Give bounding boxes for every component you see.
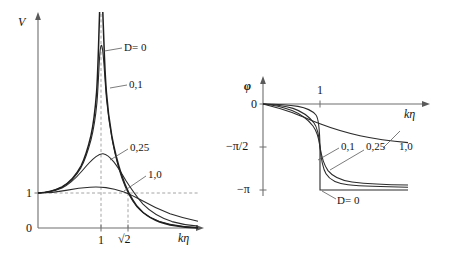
- left-curve-label-d025: 0,25: [130, 142, 149, 153]
- right-ytick-label-pi: −π: [237, 183, 250, 195]
- left-x-axis-label: kη: [178, 232, 189, 244]
- right-curve-label-d01: 0,1: [341, 141, 355, 152]
- right-xtick-label-1: 1: [317, 84, 323, 96]
- right-x-axis-arrow: [422, 101, 430, 107]
- left-curve-d0-right: [103, 12, 198, 228]
- figure-canvas: [0, 0, 452, 256]
- left-curve-label-d01: 0,1: [129, 79, 143, 90]
- right-curve-label-d10: 1,0: [399, 141, 413, 152]
- left-xtick-label-sqrt2: √2: [118, 233, 131, 245]
- resonance-figure: V kη 1 0 1 √2 D= 0 0,1 0,25 1,0 φ kη 0 −…: [0, 0, 452, 256]
- right-curve-d01: [263, 104, 408, 187]
- left-y-axis-arrow: [35, 12, 41, 20]
- right-leader-d10: [383, 131, 400, 148]
- right-leader-d0: [322, 191, 336, 199]
- left-leader-d01: [110, 85, 127, 88]
- left-ytick-label-1: 1: [26, 187, 32, 199]
- left-curve-label-d0: D= 0: [124, 42, 146, 53]
- left-curve-d01: [38, 45, 198, 227]
- left-ytick-label-0: 0: [26, 222, 32, 234]
- left-xtick-label-1: 1: [98, 234, 104, 246]
- right-y-axis-arrow: [260, 76, 266, 84]
- right-curve-label-d025: 0,25: [366, 141, 385, 152]
- right-ytick-label-halfpi: −π/2: [226, 140, 248, 152]
- left-curve-label-d10: 1,0: [148, 169, 162, 180]
- right-chart-group: [260, 76, 431, 199]
- right-leader-d025: [330, 150, 364, 170]
- left-leader-d0: [105, 48, 123, 51]
- left-curve-d0: [38, 12, 100, 193]
- left-y-axis-label: V: [18, 16, 25, 28]
- right-y-axis-label: φ: [244, 80, 251, 92]
- left-chart-group: [35, 12, 205, 232]
- left-leader-d025: [110, 149, 128, 160]
- right-curve-label-d0: D= 0: [337, 195, 359, 206]
- right-ytick-label-0: 0: [251, 98, 257, 110]
- right-x-axis-label: kη: [404, 108, 415, 120]
- right-curve-d10: [263, 104, 408, 143]
- left-curve-d10: [38, 187, 198, 221]
